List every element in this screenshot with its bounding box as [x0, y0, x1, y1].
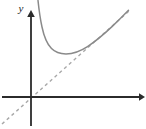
y-axis-label: y [18, 2, 24, 14]
graph-canvas: y [0, 0, 146, 129]
graph-figure: y [0, 0, 146, 129]
figure-background [0, 0, 146, 129]
